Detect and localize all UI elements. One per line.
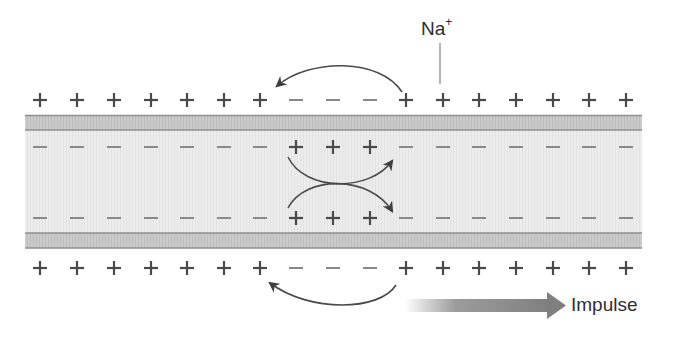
plus-charge-icon [582,93,596,107]
plus-charge-icon [180,93,194,107]
ion-charge: + [445,15,452,29]
plus-charge-icon [253,93,267,107]
impulse-arrow-icon [405,292,566,319]
plus-charge-icon [33,261,47,275]
ion-symbol: Na [421,18,445,39]
plus-charge-icon [180,261,194,275]
plus-charge-icon [107,261,121,275]
plus-charge-icon [509,261,523,275]
plus-charge-icon [217,93,231,107]
axon-membrane-diagram [0,0,674,340]
plus-charge-icon [144,93,158,107]
outer-bottom-charges [33,261,633,275]
plus-charge-icon [33,93,47,107]
plus-charge-icon [70,261,84,275]
plus-charge-icon [546,93,560,107]
top-membrane [25,115,642,130]
plus-charge-icon [144,261,158,275]
plus-charge-icon [107,93,121,107]
plus-charge-icon [399,261,413,275]
outer-bottom-current-arrow [270,283,396,305]
plus-charge-icon [546,261,560,275]
sodium-ion-label: Na+ [421,17,452,40]
plus-charge-icon [70,93,84,107]
plus-charge-icon [619,93,633,107]
plus-charge-icon [619,261,633,275]
outer-top-charges [33,93,633,107]
plus-charge-icon [217,261,231,275]
plus-charge-icon [472,261,486,275]
plus-charge-icon [509,93,523,107]
plus-charge-icon [436,261,450,275]
plus-charge-icon [436,93,450,107]
plus-charge-icon [399,93,413,107]
impulse-label: Impulse [571,294,638,316]
bottom-membrane [25,233,642,248]
outer-top-current-arrow [277,66,402,92]
plus-charge-icon [472,93,486,107]
plus-charge-icon [582,261,596,275]
plus-charge-icon [253,261,267,275]
